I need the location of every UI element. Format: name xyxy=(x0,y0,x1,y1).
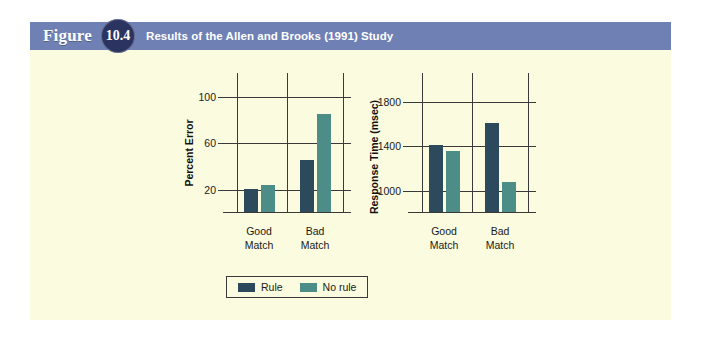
charts-area: Percent Error 2060100GoodMatchBadMatch R… xyxy=(30,50,671,320)
y-tick-label: 1800 xyxy=(378,96,401,108)
plot-area-response-time: 100014001800GoodMatchBadMatch xyxy=(408,85,536,213)
x-group-label: BadMatch xyxy=(472,224,528,252)
group-divider xyxy=(237,73,238,213)
figure-number-badge: 10.4 xyxy=(101,19,135,53)
bar xyxy=(261,185,275,212)
bar xyxy=(502,182,516,212)
group-divider xyxy=(287,73,288,213)
y-tick-label: 20 xyxy=(204,184,216,196)
group-label-line: Match xyxy=(287,238,343,252)
legend-label-no-rule: No rule xyxy=(323,281,357,293)
chart-percent-error: Percent Error 2060100GoodMatchBadMatch xyxy=(175,83,360,283)
group-label-line: Match xyxy=(472,238,528,252)
legend-label-rule: Rule xyxy=(261,281,283,293)
figure-header-bar: Figure 10.4 Results of the Allen and Bro… xyxy=(30,22,671,50)
plot-area-percent-error: 2060100GoodMatchBadMatch xyxy=(223,85,351,213)
group-label-line: Good xyxy=(431,225,457,237)
group-divider xyxy=(422,73,423,213)
bar xyxy=(317,114,331,212)
chart-response-time: Response Time (msec) 100014001800GoodMat… xyxy=(360,83,545,283)
y-tick-label: 100 xyxy=(198,91,216,103)
group-divider xyxy=(528,73,529,213)
bar xyxy=(429,145,443,212)
y-axis-title-response-time: Response Time (msec) xyxy=(368,87,382,227)
chart-legend: Rule No rule xyxy=(226,276,368,298)
group-divider xyxy=(472,73,473,213)
bar xyxy=(485,123,499,212)
figure-label: Figure xyxy=(43,26,92,46)
y-tick-label: 1000 xyxy=(378,185,401,197)
group-label-line: Good xyxy=(246,225,272,237)
bar xyxy=(300,160,314,212)
group-divider xyxy=(343,73,344,213)
group-label-line: Match xyxy=(231,238,287,252)
legend-entry-rule: Rule xyxy=(238,281,283,293)
group-label-line: Bad xyxy=(306,225,325,237)
x-group-label: GoodMatch xyxy=(416,224,472,252)
group-label-line: Bad xyxy=(491,225,510,237)
bar xyxy=(244,189,258,212)
y-axis-title-percent-error: Percent Error xyxy=(183,93,197,213)
group-label-line: Match xyxy=(416,238,472,252)
x-group-label: BadMatch xyxy=(287,224,343,252)
legend-swatch-no-rule xyxy=(300,283,317,292)
x-group-label: GoodMatch xyxy=(231,224,287,252)
y-tick-label: 1400 xyxy=(378,140,401,152)
bar xyxy=(446,151,460,212)
legend-entry-no-rule: No rule xyxy=(300,281,357,293)
y-tick-label: 60 xyxy=(204,137,216,149)
legend-swatch-rule xyxy=(238,283,255,292)
figure-title: Results of the Allen and Brooks (1991) S… xyxy=(146,30,393,42)
